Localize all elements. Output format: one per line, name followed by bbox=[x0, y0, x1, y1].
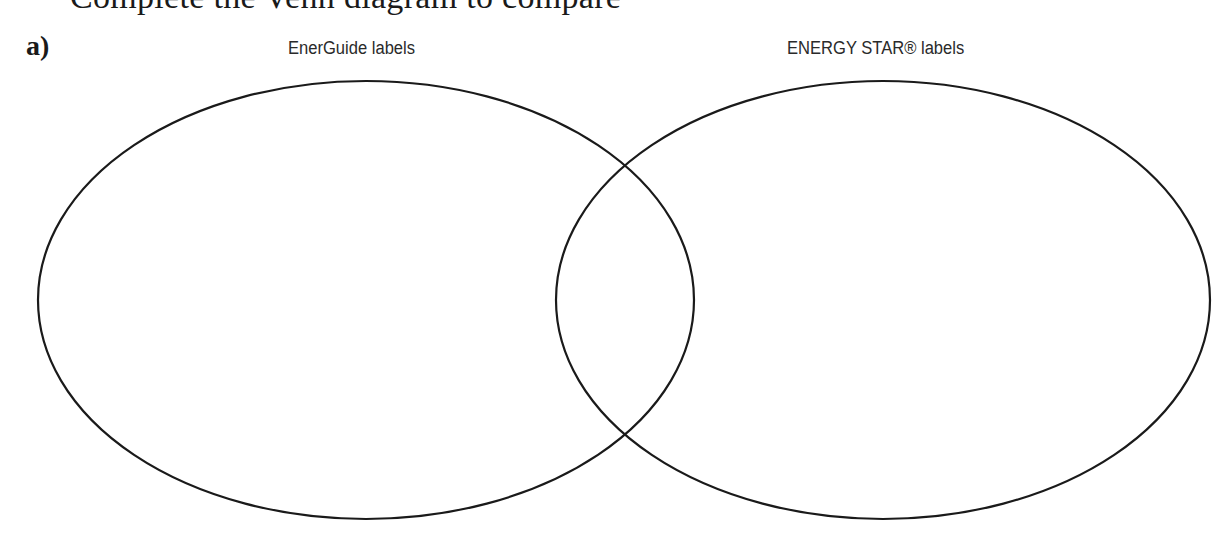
venn-diagram bbox=[0, 0, 1227, 552]
energuide-ellipse[interactable] bbox=[38, 81, 694, 519]
energy-star-ellipse[interactable] bbox=[556, 81, 1210, 519]
